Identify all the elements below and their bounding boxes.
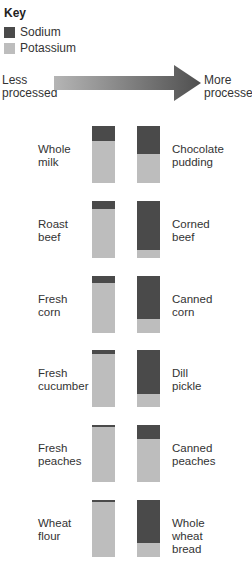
bar-less-processed bbox=[92, 126, 115, 183]
processing-arrow-icon bbox=[54, 64, 202, 102]
sodium-segment bbox=[137, 201, 160, 250]
food-label-less-processed: Freshcorn bbox=[38, 293, 67, 319]
bar-less-processed bbox=[92, 350, 115, 407]
bar-more-processed bbox=[137, 201, 160, 258]
potassium-segment bbox=[137, 319, 160, 333]
potassium-segment bbox=[92, 141, 115, 183]
sodium-segment bbox=[137, 350, 160, 394]
sodium-segment bbox=[92, 126, 115, 141]
food-label-more-processed: Cannedpeaches bbox=[172, 442, 215, 468]
potassium-segment bbox=[137, 154, 160, 183]
potassium-segment bbox=[92, 502, 115, 557]
potassium-segment bbox=[92, 209, 115, 258]
bar-less-processed bbox=[92, 276, 115, 333]
bar-more-processed bbox=[137, 425, 160, 482]
bar-more-processed bbox=[137, 126, 160, 183]
potassium-segment bbox=[137, 439, 160, 482]
sodium-swatch bbox=[4, 27, 15, 38]
bar-less-processed bbox=[92, 201, 115, 258]
sodium-segment bbox=[137, 126, 160, 154]
food-label-more-processed: Cannedcorn bbox=[172, 293, 212, 319]
less-processed-label: Less processed bbox=[2, 74, 57, 100]
food-label-less-processed: Freshcucumber bbox=[38, 367, 89, 393]
sodium-segment bbox=[92, 276, 115, 283]
bar-more-processed bbox=[137, 276, 160, 333]
sodium-segment bbox=[137, 425, 160, 439]
potassium-segment bbox=[92, 354, 115, 407]
sodium-segment bbox=[137, 500, 160, 543]
bar-more-processed bbox=[137, 350, 160, 407]
potassium-segment bbox=[137, 394, 160, 407]
potassium-legend-label: Potassium bbox=[20, 41, 76, 55]
sodium-legend-label: Sodium bbox=[20, 25, 61, 39]
potassium-swatch bbox=[4, 43, 15, 54]
bar-less-processed bbox=[92, 500, 115, 557]
food-label-more-processed: Cornedbeef bbox=[172, 218, 210, 244]
food-label-more-processed: Wholewheatbread bbox=[172, 517, 205, 556]
food-label-less-processed: Freshpeaches bbox=[38, 442, 81, 468]
food-label-less-processed: Roastbeef bbox=[38, 218, 68, 244]
sodium-segment bbox=[137, 276, 160, 319]
more-processed-label: More processed bbox=[204, 74, 252, 100]
sodium-segment bbox=[92, 201, 115, 209]
key-title: Key bbox=[4, 6, 26, 20]
food-label-more-processed: Chocolatepudding bbox=[172, 143, 224, 169]
food-label-less-processed: Wholemilk bbox=[38, 143, 71, 169]
food-label-more-processed: Dillpickle bbox=[172, 367, 201, 393]
bar-less-processed bbox=[92, 425, 115, 482]
potassium-segment bbox=[92, 427, 115, 482]
potassium-segment bbox=[92, 283, 115, 333]
food-label-less-processed: Wheatflour bbox=[38, 517, 71, 543]
potassium-segment bbox=[137, 543, 160, 557]
bar-more-processed bbox=[137, 500, 160, 557]
potassium-segment bbox=[137, 250, 160, 258]
